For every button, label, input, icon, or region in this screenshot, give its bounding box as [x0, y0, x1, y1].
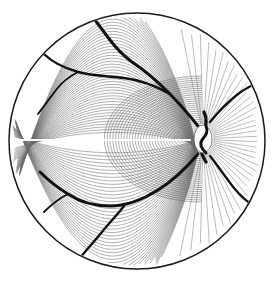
rnfl-diagram-figure: Retinal nerve fiber layer (RNFL) schemat… — [0, 0, 276, 281]
rnfl-diagram-canvas — [0, 0, 276, 281]
